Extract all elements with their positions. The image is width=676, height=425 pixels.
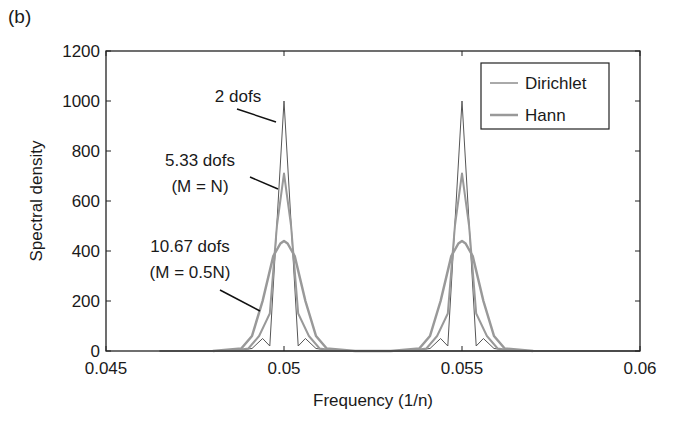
series-line-0 [231,101,516,351]
x-tick-label: 0.045 [85,359,128,378]
legend-label-hann: Hann [525,106,566,125]
x-tick-label: 0.05 [267,359,300,378]
x-tick-label: 0.055 [441,359,484,378]
annotation-pointer [250,177,278,189]
y-axis-title: Spectral density [27,140,46,261]
annotation-m-eq-n: (M = N) [171,177,228,196]
spectral-density-chart: 0200400600800100012000.0450.050.0550.06F… [0,0,676,425]
y-tick-label: 1200 [62,42,100,61]
y-tick-label: 1000 [62,92,100,111]
legend-label-dirichlet: Dirichlet [525,74,587,93]
annotation-pointer [220,290,260,311]
annotation-2-dofs: 2 dofs [215,87,261,106]
annotation-5-33-dofs: 5.33 dofs [165,151,235,170]
series-line-1 [231,174,516,352]
annotation-pointer [237,109,276,122]
y-tick-label: 800 [72,142,100,161]
annotation-10-67-dofs: 10.67 dofs [150,237,229,256]
annotation-m-eq-0-5n: (M = 0.5N) [150,263,231,282]
y-tick-label: 200 [72,292,100,311]
x-axis-title: Frequency (1/n) [313,391,433,410]
y-tick-label: 400 [72,242,100,261]
x-tick-label: 0.06 [623,359,656,378]
y-tick-label: 600 [72,192,100,211]
